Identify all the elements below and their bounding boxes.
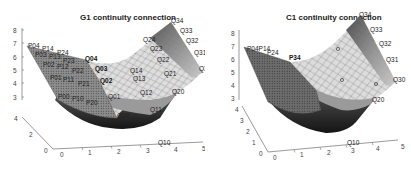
svg-text:3: 3 — [13, 94, 17, 101]
svg-text:P24: P24 — [267, 49, 279, 56]
svg-text:P10: P10 — [72, 95, 84, 102]
svg-text:Q13: Q13 — [133, 75, 146, 83]
svg-text:1: 1 — [88, 149, 92, 156]
svg-text:Q24: Q24 — [143, 36, 156, 44]
svg-text:4: 4 — [14, 115, 18, 122]
svg-text:P04: P04 — [28, 42, 40, 49]
svg-text:3: 3 — [351, 147, 355, 154]
svg-text:8: 8 — [13, 27, 17, 34]
z-axis: 8 7 6 5 4 3 — [13, 27, 24, 101]
x-axis: 0 1 2 3 4 5 — [268, 140, 405, 161]
svg-text:0: 0 — [259, 150, 263, 157]
svg-text:Q32: Q32 — [186, 37, 199, 45]
svg-text:P12: P12 — [57, 63, 69, 70]
svg-text:Q20: Q20 — [172, 88, 185, 96]
svg-text:4: 4 — [231, 82, 235, 89]
svg-text:Q33: Q33 — [180, 27, 193, 35]
svg-text:Q02: Q02 — [100, 77, 113, 85]
svg-text:3: 3 — [146, 147, 150, 154]
svg-text:1: 1 — [252, 139, 256, 146]
svg-text:3: 3 — [231, 95, 235, 102]
svg-text:4: 4 — [376, 145, 380, 152]
svg-text:5: 5 — [13, 67, 17, 74]
svg-text:Q30: Q30 — [393, 76, 406, 84]
y-axis: 4 3 2 1 0 — [235, 106, 268, 157]
svg-text:2: 2 — [29, 131, 33, 138]
svg-text:P01: P01 — [50, 74, 62, 81]
svg-text:1: 1 — [300, 151, 304, 158]
svg-text:0: 0 — [60, 151, 64, 158]
y-axis: 4 2 0 — [14, 115, 53, 154]
svg-text:2: 2 — [117, 148, 121, 155]
svg-text:7: 7 — [231, 43, 235, 50]
svg-text:Q33: Q33 — [370, 26, 383, 34]
svg-text:4: 4 — [174, 146, 178, 153]
svg-text:Q20: Q20 — [372, 96, 385, 104]
svg-text:Q22: Q22 — [157, 56, 170, 64]
svg-text:P02: P02 — [43, 61, 55, 68]
svg-text:2: 2 — [246, 128, 250, 135]
svg-text:3: 3 — [240, 117, 244, 124]
svg-text:Q14: Q14 — [130, 67, 143, 75]
svg-text:4: 4 — [235, 106, 239, 113]
x-axis: 0 1 2 3 4 5 — [53, 142, 205, 158]
svg-text:Q03: Q03 — [95, 65, 108, 73]
svg-text:5: 5 — [401, 143, 405, 150]
svg-text:5: 5 — [231, 69, 235, 76]
svg-text:Q12: Q12 — [140, 89, 153, 97]
svg-text:8: 8 — [231, 30, 235, 37]
svg-text:Q31: Q31 — [194, 49, 205, 57]
svg-text:0: 0 — [44, 147, 48, 154]
svg-text:Q30: Q30 — [199, 65, 205, 73]
svg-text:Q11: Q11 — [150, 106, 162, 114]
figure: G1 continuity connection — [0, 0, 411, 170]
svg-text:Q21: Q21 — [164, 70, 177, 78]
svg-text:7: 7 — [13, 40, 17, 47]
svg-text:Q10: Q10 — [347, 139, 360, 147]
svg-text:P22: P22 — [72, 67, 84, 74]
svg-text:Q34: Q34 — [171, 17, 184, 25]
svg-text:P03: P03 — [35, 51, 47, 58]
svg-text:P00: P00 — [58, 93, 70, 100]
svg-text:Q32: Q32 — [379, 40, 392, 48]
svg-text:Q00: Q00 — [117, 112, 130, 120]
svg-text:P21: P21 — [78, 80, 90, 87]
panel-g1: G1 continuity connection — [0, 0, 205, 170]
svg-text:Q31: Q31 — [386, 56, 399, 64]
svg-text:P13: P13 — [49, 53, 61, 60]
svg-text:P34: P34 — [289, 54, 301, 61]
panel-c1: C1 continuity connection — [206, 0, 411, 170]
svg-text:Q34: Q34 — [359, 11, 372, 19]
svg-text:5: 5 — [202, 145, 205, 152]
svg-text:2: 2 — [327, 149, 331, 156]
svg-text:4: 4 — [13, 80, 17, 87]
surface-plot-c1: 8 7 6 5 4 3 4 3 2 1 0 0 1 2 — [206, 0, 411, 170]
svg-text:P20: P20 — [86, 99, 98, 106]
svg-text:Q01: Q01 — [108, 93, 121, 101]
z-axis: 8 7 6 5 4 3 — [231, 30, 239, 102]
svg-text:6: 6 — [13, 54, 17, 61]
svg-text:P11: P11 — [63, 76, 74, 83]
svg-text:Q04: Q04 — [85, 55, 98, 63]
svg-text:0: 0 — [273, 154, 277, 161]
svg-text:Q23: Q23 — [150, 45, 163, 53]
svg-text:Q10: Q10 — [158, 139, 171, 147]
surface-plot-g1: 8 7 6 5 4 3 4 2 0 — [0, 0, 205, 170]
svg-text:6: 6 — [231, 56, 235, 63]
